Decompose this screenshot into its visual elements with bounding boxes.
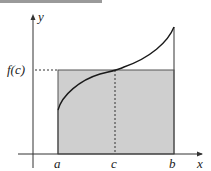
y-axis-label: y	[36, 9, 44, 24]
mean-value-rectangle	[58, 70, 174, 154]
y-axis-arrow-icon	[31, 14, 36, 20]
tick-label-a: a	[54, 156, 61, 171]
mvt-diagram: y x a c b f(c)	[0, 0, 211, 171]
tick-label-c: c	[111, 156, 117, 171]
x-axis-label: x	[196, 156, 203, 171]
tick-label-b: b	[169, 156, 176, 171]
tick-label-fc: f(c)	[7, 62, 25, 77]
